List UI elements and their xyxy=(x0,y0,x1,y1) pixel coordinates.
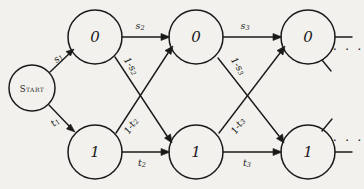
node-one-1-label: 1 xyxy=(90,143,100,161)
node-zero-1[interactable]: 0 xyxy=(68,10,122,64)
edge-line xyxy=(218,58,279,136)
node-start[interactable]: Start xyxy=(9,65,55,111)
stub-top-right-diagonal xyxy=(322,60,331,71)
edge-one1-to-one2 xyxy=(122,149,170,156)
ellipsis-bottom: · · · xyxy=(333,133,364,148)
node-start-label: Start xyxy=(20,84,45,94)
edge-label-zero2-to-one3: 1-s3 xyxy=(228,55,248,77)
edge-label-zero1-to-zero2: s2 xyxy=(135,20,144,32)
edge-one2-to-zero3 xyxy=(219,46,285,133)
ellipsis-top: · · · xyxy=(333,42,364,57)
diagram-canvas: Start 0 0 0 1 1 1 s1 xyxy=(0,0,364,189)
edge-zero2-to-zero3 xyxy=(223,34,282,41)
edge-label-one2-to-one3: t3 xyxy=(243,157,251,169)
node-zero-2[interactable]: 0 xyxy=(169,10,223,64)
edge-label-one1-to-one2: t2 xyxy=(138,157,146,169)
edge-line xyxy=(219,53,280,133)
edge-label-start-to-zero: s1 xyxy=(50,50,65,65)
edge-label-zero1-to-one2: 1-s2 xyxy=(121,55,141,77)
markov-trellis-diagram: Start 0 0 0 1 1 1 s1 xyxy=(0,0,364,189)
edge-line xyxy=(115,57,167,136)
node-zero-1-label: 0 xyxy=(90,28,100,46)
node-zero-3-label: 0 xyxy=(303,28,313,46)
node-zero-3[interactable]: 0 xyxy=(281,10,335,64)
node-one-2-label: 1 xyxy=(191,143,201,161)
edge-label-one1-to-zero2: 1-t2 xyxy=(121,115,141,136)
node-one-2[interactable]: 1 xyxy=(169,125,223,179)
edge-label-zero2-to-zero3: s3 xyxy=(240,20,249,32)
edge-start-to-one1 xyxy=(49,105,75,132)
node-zero-2-label: 0 xyxy=(191,28,201,46)
edge-line xyxy=(116,53,168,133)
edge-one2-to-one3 xyxy=(223,149,282,156)
edge-zero1-to-zero2 xyxy=(122,34,170,41)
node-one-1[interactable]: 1 xyxy=(68,125,122,179)
node-one-3-label: 1 xyxy=(303,143,313,161)
node-one-3[interactable]: 1 xyxy=(281,125,335,179)
